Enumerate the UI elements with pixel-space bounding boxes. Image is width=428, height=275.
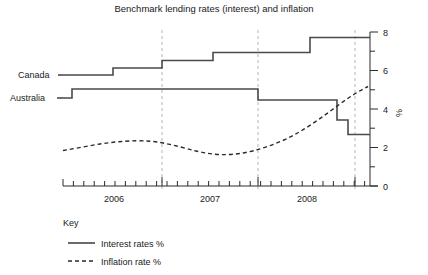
y-tick-label-0: 0 — [383, 182, 388, 192]
series-label-australia: Australia — [10, 93, 45, 103]
y-tick-label-8: 8 — [383, 28, 388, 38]
y-tick-label-4: 4 — [383, 105, 388, 115]
series-label-canada: Canada — [18, 70, 50, 80]
legend-heading: Key — [63, 218, 79, 228]
x-tick-label-2008: 2008 — [297, 194, 317, 204]
page-title: Benchmark lending rates (interest) and i… — [114, 3, 313, 14]
legend-label-inflation-rate: Inflation rate % — [101, 257, 161, 267]
y-axis-unit-label: % — [394, 109, 404, 117]
x-tick-label-2007: 2007 — [200, 194, 220, 204]
chart-container: Benchmark lending rates (interest) and i… — [0, 0, 428, 275]
y-tick-label-2: 2 — [383, 143, 388, 153]
chart-background — [0, 0, 428, 275]
y-tick-label-6: 6 — [383, 66, 388, 76]
x-tick-label-2006: 2006 — [104, 194, 124, 204]
legend-label-interest-rates: Interest rates % — [101, 239, 164, 249]
